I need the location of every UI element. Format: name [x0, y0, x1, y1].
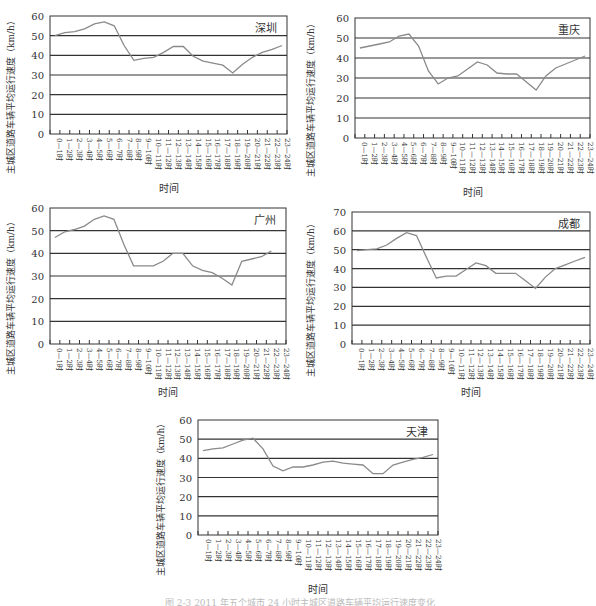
x-tick-label: 20—21时	[253, 138, 262, 170]
chart-panel-3: 0102030405060700—1时1—2时2—3时3—4时4—5时5—6时6…	[300, 200, 596, 404]
x-tick-label: 14—15时	[194, 138, 203, 170]
x-tick-label: 18—19时	[233, 138, 242, 170]
chart-panel-0: 01020304050600—1时1—2时2—3时3—4时4—5时5—6时6—7…	[0, 0, 296, 204]
x-tick-label: 3—4时	[390, 142, 399, 165]
x-tick-label: 15—16时	[506, 348, 515, 380]
x-tick-label: 5—6时	[407, 348, 416, 371]
y-tick-label: 70	[333, 207, 346, 218]
plot-frame	[352, 212, 590, 344]
x-tick-label: 19—20时	[394, 539, 403, 571]
city-label: 广州	[254, 214, 276, 227]
y-tick-label: 0	[38, 339, 44, 350]
x-tick-label: 4—5时	[95, 138, 104, 161]
x-tick-label: 1—2时	[65, 348, 74, 371]
x-tick-label: 5—6时	[105, 348, 114, 371]
speed-line-series	[360, 34, 585, 90]
x-tick-label: 15—16时	[354, 539, 363, 571]
x-tick-label: 20—21时	[252, 348, 261, 380]
x-tick-label: 13—14时	[334, 539, 343, 571]
line-chart: 01020304050600—1时1—2时2—3时3—4时4—5时5—6时6—7…	[150, 400, 446, 600]
x-tick-label: 1—2时	[214, 539, 223, 562]
x-tick-label: 9—10时	[144, 138, 153, 165]
y-tick-label: 60	[336, 13, 349, 24]
y-tick-label: 50	[31, 31, 44, 42]
x-tick-label: 11—12时	[467, 348, 476, 380]
speed-line-series	[357, 233, 585, 289]
y-tick-label: 20	[31, 294, 44, 305]
x-tick-label: 22—23时	[576, 142, 585, 174]
x-tick-label: 9—10时	[294, 539, 303, 566]
y-tick-label: 40	[179, 453, 192, 464]
x-tick-label: 18—19时	[232, 348, 241, 380]
x-tick-label: 0—1时	[204, 539, 213, 562]
x-tick-label: 3—4时	[234, 539, 243, 562]
x-tick-label: 10—11时	[458, 142, 467, 174]
y-tick-label: 30	[333, 282, 346, 293]
x-tick-label: 20—21时	[404, 539, 413, 571]
y-tick-label: 10	[31, 109, 44, 120]
y-axis-label: 主城区道路车辆平均运行速度（km/h）	[5, 16, 16, 174]
y-tick-label: 60	[333, 226, 346, 237]
x-tick-label: 21—22时	[414, 539, 423, 571]
x-tick-label: 11—12时	[468, 142, 477, 174]
line-chart: 01020304050600—1时1—2时2—3时3—4时4—5时5—6时6—7…	[300, 0, 596, 200]
x-tick-label: 7—8时	[124, 348, 133, 371]
y-tick-label: 10	[336, 113, 349, 124]
x-tick-label: 17—18时	[223, 348, 232, 380]
x-tick-label: 17—18时	[374, 539, 383, 571]
city-label: 成都	[558, 218, 580, 231]
x-tick-label: 4—5时	[397, 348, 406, 371]
x-tick-label: 22—23时	[273, 138, 282, 170]
x-tick-label: 10—11时	[154, 138, 163, 170]
x-tick-label: 9—10时	[447, 348, 456, 375]
x-tick-label: 11—12时	[314, 539, 323, 571]
x-axis-label: 时间	[158, 386, 178, 398]
y-tick-label: 50	[336, 33, 349, 44]
x-tick-label: 12—13时	[478, 142, 487, 174]
x-tick-label: 8—9时	[134, 138, 143, 161]
x-tick-label: 10—11时	[457, 348, 466, 380]
x-tick-label: 20—21时	[556, 142, 565, 174]
x-tick-label: 21—22时	[566, 348, 575, 380]
x-tick-label: 18—19时	[536, 348, 545, 380]
y-tick-label: 20	[31, 90, 44, 101]
x-tick-label: 20—21时	[556, 348, 565, 380]
x-tick-label: 10—11时	[154, 348, 163, 380]
x-tick-label: 0—1时	[55, 138, 64, 161]
x-tick-label: 17—18时	[526, 348, 535, 380]
x-tick-label: 16—17时	[516, 348, 525, 380]
x-tick-label: 22—23时	[424, 539, 433, 571]
x-tick-label: 2—3时	[377, 348, 386, 371]
x-tick-label: 8—9时	[284, 539, 293, 562]
x-tick-label: 4—5时	[95, 348, 104, 371]
y-tick-label: 30	[31, 271, 44, 282]
x-tick-label: 15—16时	[507, 142, 516, 174]
x-tick-label: 23—24时	[283, 138, 292, 170]
y-tick-label: 60	[31, 11, 44, 22]
x-tick-label: 1—2时	[370, 142, 379, 165]
x-tick-label: 13—14时	[486, 348, 495, 380]
x-axis-label: 时间	[461, 386, 481, 398]
x-tick-label: 22—23时	[576, 348, 585, 380]
x-tick-label: 7—8时	[427, 348, 436, 371]
x-tick-label: 8—9时	[134, 348, 143, 371]
y-tick-label: 60	[179, 415, 192, 426]
x-tick-label: 3—4时	[85, 348, 94, 371]
x-tick-label: 4—5时	[244, 539, 253, 562]
x-tick-label: 18—19时	[537, 142, 546, 174]
x-tick-label: 11—12时	[164, 348, 173, 380]
x-tick-label: 4—5时	[400, 142, 409, 165]
chart-panel-4: 01020304050600—1时1—2时2—3时3—4时4—5时5—6时6—7…	[150, 400, 446, 604]
y-axis-label: 主城区道路车辆平均运行速度（km/h）	[305, 219, 316, 377]
x-tick-label: 19—20时	[242, 348, 251, 380]
x-tick-label: 21—22时	[262, 348, 271, 380]
x-tick-label: 15—16时	[204, 138, 213, 170]
x-tick-label: 16—17时	[213, 138, 222, 170]
x-tick-label: 15—16时	[203, 348, 212, 380]
x-tick-label: 23—24时	[586, 348, 595, 380]
y-tick-label: 10	[333, 320, 346, 331]
y-axis-label: 主城区道路车辆平均运行速度（km/h）	[155, 419, 166, 577]
y-tick-label: 40	[333, 264, 346, 275]
x-axis-label: 时间	[159, 182, 179, 194]
chart-panel-2: 01020304050600—1时1—2时2—3时3—4时4—5时5—6时6—7…	[0, 200, 296, 404]
